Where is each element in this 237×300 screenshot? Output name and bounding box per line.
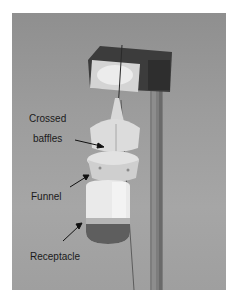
label-crossed-baffles-line1: Crossed — [29, 113, 66, 124]
lamp-head — [88, 46, 172, 92]
label-crossed-baffles-line2: baffles — [33, 133, 62, 144]
sampler-assembly — [86, 98, 140, 244]
label-funnel: Funnel — [31, 191, 62, 202]
label-receptacle: Receptacle — [30, 251, 80, 262]
photo-illustration — [12, 13, 226, 290]
sampler-photo — [12, 13, 226, 290]
lamp-pole — [150, 78, 163, 290]
